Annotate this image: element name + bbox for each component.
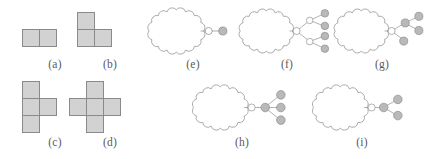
cell bbox=[78, 13, 95, 30]
cell bbox=[40, 30, 57, 47]
panel-g-label: (g) bbox=[332, 58, 432, 70]
cell bbox=[23, 82, 40, 99]
figure-panel-grid: (a) (b) (c) bbox=[0, 0, 434, 159]
cloud-shape bbox=[312, 85, 368, 130]
cell bbox=[95, 30, 112, 47]
node-white-root bbox=[248, 104, 255, 111]
cloud-shape bbox=[239, 9, 293, 53]
cell bbox=[40, 99, 57, 116]
panel-f: (f) bbox=[237, 2, 337, 76]
node-gray-leaf bbox=[415, 12, 423, 20]
cell bbox=[104, 99, 121, 116]
panel-e-label: (e) bbox=[145, 58, 241, 70]
cell bbox=[78, 30, 95, 47]
panel-f-art bbox=[237, 2, 337, 60]
panel-d: (d) bbox=[55, 78, 165, 154]
panel-f-label: (f) bbox=[237, 58, 337, 70]
node-white-root bbox=[388, 27, 395, 34]
cell bbox=[23, 30, 40, 47]
node-gray-leaf bbox=[400, 37, 408, 45]
panel-g: (g) bbox=[332, 2, 432, 76]
graph-i bbox=[312, 85, 402, 130]
node-gray-branch bbox=[401, 19, 409, 27]
node-gray-leaf bbox=[394, 111, 403, 120]
polyomino-t-tetromino bbox=[23, 82, 57, 133]
node-white-root bbox=[368, 104, 375, 111]
node-gray-leaf bbox=[415, 26, 423, 34]
node-gray-leaf bbox=[321, 22, 329, 30]
node-white-branch-lower bbox=[306, 38, 313, 45]
node-gray-leaf bbox=[321, 45, 329, 53]
node-gray-center bbox=[261, 103, 270, 112]
node-gray-leaf bbox=[277, 116, 286, 125]
panel-d-art bbox=[55, 78, 165, 136]
cell bbox=[87, 116, 104, 133]
polyomino-domino bbox=[23, 30, 57, 47]
panel-e: (e) bbox=[145, 2, 241, 76]
graph-h bbox=[192, 85, 285, 130]
polyomino-l-tromino bbox=[78, 13, 112, 47]
node-white-root bbox=[293, 27, 300, 34]
node-gray-leaf bbox=[321, 32, 329, 40]
cloud-shape bbox=[148, 8, 205, 54]
polyomino-plus-pentomino bbox=[70, 82, 121, 133]
cell bbox=[70, 99, 87, 116]
node-gray-center bbox=[379, 103, 388, 112]
cloud-shape bbox=[334, 9, 388, 53]
panel-i-art bbox=[310, 78, 414, 138]
graph-g bbox=[334, 9, 423, 53]
panel-i: (i) bbox=[310, 78, 414, 156]
panel-e-art bbox=[145, 2, 241, 60]
cloud-shape bbox=[192, 85, 248, 130]
panel-d-label: (d) bbox=[55, 136, 165, 148]
panel-g-art bbox=[332, 2, 432, 60]
node-white-branch-upper bbox=[306, 17, 313, 24]
node-white-root bbox=[205, 27, 212, 34]
cell bbox=[87, 99, 104, 116]
node-gray-leaf bbox=[277, 103, 286, 112]
cell bbox=[23, 99, 40, 116]
graph-e bbox=[148, 8, 227, 54]
node-gray-leaf bbox=[219, 27, 227, 35]
panel-h-art bbox=[190, 78, 294, 138]
graph-f bbox=[239, 9, 329, 53]
panel-h-label: (h) bbox=[190, 136, 294, 148]
node-gray-leaf bbox=[321, 10, 329, 18]
panel-h: (h) bbox=[190, 78, 294, 156]
cell bbox=[23, 116, 40, 133]
node-gray-leaf bbox=[277, 91, 286, 100]
panel-i-label: (i) bbox=[310, 136, 414, 148]
node-gray-leaf bbox=[394, 95, 403, 104]
cell bbox=[87, 82, 104, 99]
